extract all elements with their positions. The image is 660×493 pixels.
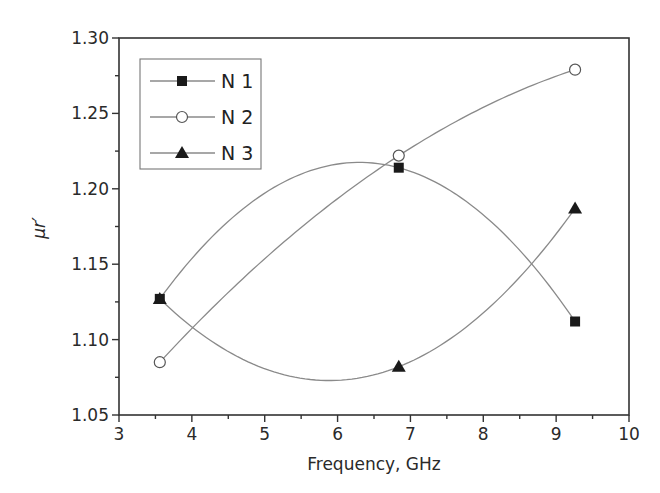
x-tick-label: 6 [332,424,343,444]
legend-circle-icon [177,112,188,123]
x-axis-title: Frequency, GHz [307,454,441,474]
y-axis-title: μr′ [29,217,49,240]
legend-square-icon [177,76,187,86]
triangle-marker [392,360,406,372]
curve-n3 [160,208,575,380]
circle-marker [154,357,165,368]
y-tick-label: 1.10 [71,330,109,350]
x-tick-label: 9 [551,424,562,444]
x-tick-label: 5 [259,424,270,444]
square-marker [394,163,404,173]
y-axis-tick-labels: 1.051.101.151.201.251.30 [71,28,109,425]
svg-text:μr′: μr′ [29,217,49,240]
y-tick-label: 1.15 [71,254,109,274]
square-marker [570,317,580,327]
y-tick-label: 1.05 [71,405,109,425]
legend-label: N 3 [221,142,253,164]
triangle-marker [568,201,582,213]
legend-label: N 1 [221,70,253,92]
y-tick-label: 1.30 [71,28,109,48]
x-tick-label: 10 [618,424,640,444]
x-tick-label: 8 [478,424,489,444]
chart-canvas: 345678910 1.051.101.151.201.251.30 N 1N … [0,0,660,493]
x-tick-label: 4 [186,424,197,444]
circle-marker [570,64,581,75]
x-tick-label: 7 [405,424,416,444]
y-tick-label: 1.25 [71,103,109,123]
legend: N 1N 2N 3 [140,59,261,169]
legend-label: N 2 [221,106,253,128]
circle-marker [393,150,404,161]
y-tick-label: 1.20 [71,179,109,199]
x-axis-tick-labels: 345678910 [114,424,640,444]
x-tick-label: 3 [114,424,125,444]
